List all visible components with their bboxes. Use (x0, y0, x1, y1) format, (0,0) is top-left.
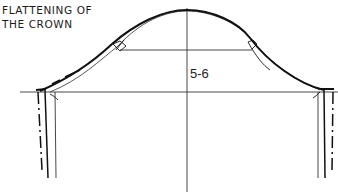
left-seam-dashes (52, 70, 80, 84)
sleeve-crown-diagram (0, 0, 338, 192)
flattened-crown-curve (40, 10, 324, 91)
right-notch-marker (248, 40, 270, 70)
right-underarm-lines (313, 89, 334, 178)
left-underarm-lines (36, 89, 58, 178)
crown-height-label: 5-6 (190, 66, 209, 81)
original-crown-curve (50, 11, 320, 92)
